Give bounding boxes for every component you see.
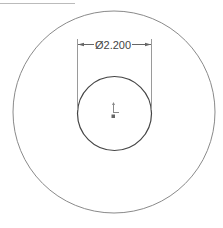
arrowhead-right — [145, 43, 151, 46]
drawing-canvas: Ø2.200 — [0, 0, 223, 228]
arrowhead-left — [78, 43, 84, 46]
dimension-label[interactable]: Ø2.200 — [95, 39, 131, 51]
origin-icon — [112, 102, 120, 118]
inner-circle[interactable] — [78, 77, 152, 151]
